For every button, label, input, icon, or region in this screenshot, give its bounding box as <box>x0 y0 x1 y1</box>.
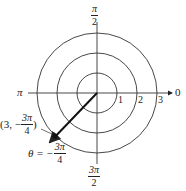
angle-label-pi: π <box>17 87 23 98</box>
theta-prefix: θ = − <box>28 148 54 159</box>
angle-label-pi-over-2: π2 <box>91 4 98 27</box>
ring-label-1: 1 <box>118 95 123 105</box>
ring-label-2: 2 <box>138 95 143 105</box>
ring-label-3: 3 <box>158 95 163 105</box>
angle-label-3pi-over-2: 3π2 <box>88 165 100 188</box>
theta-label: θ = − 3π4 <box>28 142 66 165</box>
coord-prefix: (3, − <box>0 119 21 130</box>
angle-label-zero: 0 <box>175 87 181 98</box>
point-leader-line <box>41 129 52 134</box>
coord-suffix: ) <box>33 119 37 130</box>
point-coordinate-label: (3, − 3π4 ) <box>0 113 37 136</box>
theta-numerator: 3π <box>54 142 66 154</box>
plotted-point <box>52 133 57 138</box>
coord-numerator: 3π <box>21 113 33 125</box>
label-denominator: 2 <box>92 177 97 188</box>
label-numerator: π <box>91 4 98 16</box>
coord-denominator: 4 <box>24 125 29 136</box>
label-denominator: 2 <box>92 16 97 27</box>
label-numerator: 3π <box>88 165 100 177</box>
theta-denominator: 4 <box>57 154 62 165</box>
